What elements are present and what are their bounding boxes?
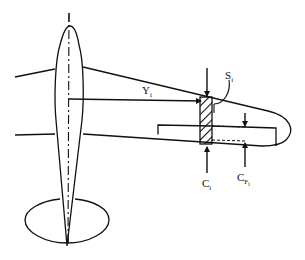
right-wing-outline	[83, 67, 291, 146]
label-s: Si	[225, 70, 233, 84]
wing-strip	[200, 97, 212, 144]
label-cf: CFi	[237, 172, 250, 186]
label-c: Ci	[202, 178, 211, 192]
label-s-sub: i	[231, 76, 233, 84]
label-y-main: Y	[142, 84, 150, 96]
label-y: Yi	[142, 85, 152, 99]
label-cf-subsub: i	[248, 181, 250, 187]
label-c-sub: i	[209, 184, 211, 192]
aircraft-diagram	[0, 0, 305, 260]
y-arrow	[69, 99, 201, 101]
left-wing-leading-edge	[15, 69, 55, 77]
fuselage	[55, 26, 83, 246]
left-wing-trailing-edge	[15, 134, 55, 135]
label-y-sub: i	[150, 91, 152, 99]
